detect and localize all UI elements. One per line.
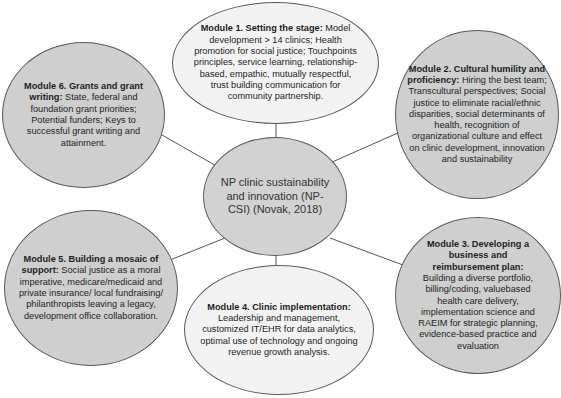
module-4-title: Module 4. Clinic implementation:: [207, 302, 350, 312]
module-4-node: Module 4. Clinic implementation: Leaders…: [184, 265, 374, 395]
module-6-node: Module 6. Grants and grant writing: Stat…: [2, 42, 165, 188]
module-4-body: Leadership and management, customized IT…: [200, 313, 357, 357]
module-3-title: Module 3. Developing a business and reim…: [427, 239, 529, 272]
connector-module-2: [330, 132, 400, 163]
connector-module-3: [330, 238, 403, 265]
central-concept-node: NP clinic sustainability and innovation …: [203, 137, 347, 256]
module-5-node: Module 5. Building a mosaic of support: …: [4, 210, 178, 366]
module-2-body: Hiring the best team; Transcultural pers…: [408, 75, 546, 164]
module-1-node: Module 1. Setting the stage: Model devel…: [172, 2, 379, 124]
module-1-title: Module 1. Setting the stage:: [201, 23, 323, 33]
central-concept-label: NP clinic sustainability and innovation …: [219, 176, 331, 217]
module-2-node: Module 2. Cultural humility and proficie…: [395, 30, 559, 199]
connector-module-5: [170, 238, 225, 260]
module-3-node: Module 3. Developing a business and reim…: [395, 217, 561, 374]
module-3-body: Building a diverse portfolio, billing/co…: [418, 273, 538, 351]
connector-module-6: [162, 135, 220, 168]
module-1-body: Model development > 14 clinics; Health p…: [194, 23, 357, 101]
